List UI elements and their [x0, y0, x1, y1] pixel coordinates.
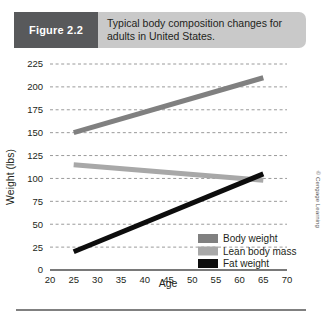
chart-container: 0255075100125150175200225 20253035404550…	[0, 52, 322, 292]
x-tick-label: 55	[211, 274, 222, 285]
series-line	[74, 78, 264, 133]
bottom-divider	[16, 309, 306, 311]
x-tick-label: 25	[68, 274, 79, 285]
line-chart: 0255075100125150175200225 20253035404550…	[0, 52, 322, 292]
x-tick-label: 65	[258, 274, 269, 285]
y-tick-label: 75	[32, 196, 43, 207]
y-tick-label: 50	[32, 219, 43, 230]
legend-swatch	[198, 259, 218, 268]
legend-swatch	[198, 247, 218, 256]
data-series	[74, 78, 264, 252]
figure-number-badge: Figure 2.2	[14, 12, 98, 48]
legend-label: Fat weight	[223, 258, 269, 269]
figure-number-label: Figure 2.2	[29, 24, 83, 36]
y-axis-tick-labels: 0255075100125150175200225	[27, 58, 43, 275]
legend-label: Body weight	[223, 233, 278, 244]
x-axis-title: Age	[159, 277, 178, 289]
y-tick-label: 125	[27, 150, 43, 161]
y-tick-label: 225	[27, 58, 43, 69]
gridlines	[50, 64, 287, 247]
y-tick-label: 150	[27, 127, 43, 138]
x-tick-label: 60	[234, 274, 245, 285]
y-tick-label: 0	[38, 264, 43, 275]
x-tick-label: 35	[116, 274, 127, 285]
y-tick-label: 175	[27, 104, 43, 115]
y-tick-label: 200	[27, 81, 43, 92]
y-axis-title: Weight (lbs)	[4, 149, 16, 205]
x-tick-label: 70	[282, 274, 293, 285]
y-tick-label: 100	[27, 173, 43, 184]
x-tick-label: 30	[92, 274, 103, 285]
legend-swatch	[198, 234, 218, 243]
figure-header: Figure 2.2 Typical body composition chan…	[14, 12, 306, 48]
x-tick-label: 50	[187, 274, 198, 285]
x-tick-label: 20	[45, 274, 56, 285]
y-tick-label: 25	[32, 242, 43, 253]
copyright-credit: © Cengage Learning	[315, 171, 321, 228]
x-tick-label: 40	[140, 274, 151, 285]
figure-caption-text: Typical body composition changes for adu…	[107, 17, 300, 43]
legend-label: Lean body mass	[223, 246, 296, 257]
figure-caption: Typical body composition changes for adu…	[98, 12, 306, 48]
series-line	[74, 165, 264, 181]
chart-legend: Body weightLean body massFat weight	[198, 233, 296, 269]
